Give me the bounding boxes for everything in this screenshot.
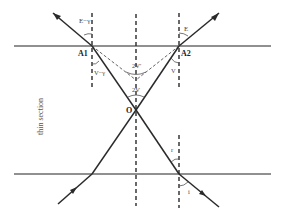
arc-bottom-r (171, 159, 179, 162)
virtual-ray-right (136, 46, 179, 80)
label-angle-top-right: E (184, 25, 188, 33)
label-A1: A1 (78, 49, 88, 58)
diagram-canvas: E−γ E A1 A2 V−γ V 2V' 2V O r i thin sect… (0, 0, 285, 216)
arc-mid-left (92, 61, 99, 64)
arc-bottom-i (179, 182, 188, 186)
label-angle-center-upper: 2V' (132, 62, 141, 69)
ray-in-right (179, 174, 219, 207)
ray-A1-to-O (92, 46, 136, 110)
label-O: O (126, 106, 132, 115)
label-angle-mid-left: V−γ (94, 69, 105, 76)
label-angle-mid-right: V (171, 67, 176, 74)
label-thin-section: thin section (36, 98, 45, 135)
arc-top-left (84, 34, 92, 35)
arrowhead-out-right-icon (211, 13, 219, 21)
label-angle-bottom-i: i (188, 188, 190, 195)
label-A2: A2 (181, 49, 191, 58)
arc-center-lower (128, 95, 144, 97)
ray-O-to-bottom-right (136, 110, 179, 174)
ray-O-to-bottom-left (92, 110, 136, 174)
label-angle-bottom-r: r (171, 146, 174, 153)
arc-mid-right (171, 58, 179, 63)
ray-A2-to-O (136, 46, 179, 110)
ray-diagram: E−γ E A1 A2 V−γ V 2V' 2V O r i thin sect… (0, 0, 285, 216)
arc-top-right (179, 33, 188, 36)
label-angle-top-left: E−γ (79, 17, 90, 25)
label-angle-center-lower: 2V (132, 86, 140, 93)
